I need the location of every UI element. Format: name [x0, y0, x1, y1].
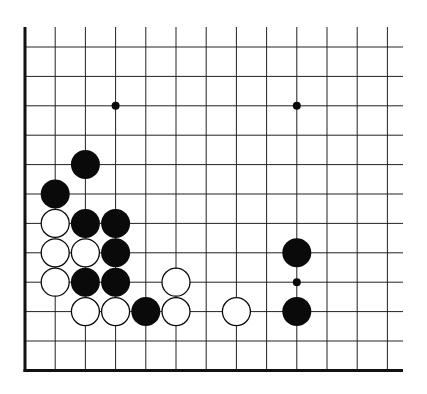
star-point [112, 102, 120, 110]
black-stone [71, 268, 100, 297]
black-stone [71, 150, 100, 179]
black-stone [101, 209, 130, 238]
star-point [293, 102, 301, 110]
black-stone [41, 180, 70, 209]
white-stone [71, 239, 99, 267]
black-stone [282, 238, 311, 267]
white-stone [102, 298, 130, 326]
black-stone [71, 209, 100, 238]
black-stone [101, 238, 130, 267]
star-point [293, 278, 301, 286]
black-stone [131, 297, 160, 326]
white-stone [222, 298, 250, 326]
white-stone [71, 298, 99, 326]
white-stone [41, 239, 69, 267]
black-stone [282, 297, 311, 326]
white-stone [41, 209, 69, 237]
white-stone [162, 268, 190, 296]
white-stone [162, 298, 190, 326]
go-board [0, 0, 427, 394]
black-stone [101, 268, 130, 297]
white-stone [41, 268, 69, 296]
